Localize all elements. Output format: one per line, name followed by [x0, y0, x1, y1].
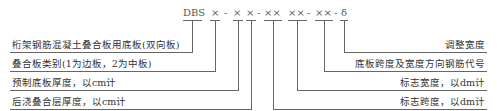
label-adjust-width: 调整宽度 — [445, 39, 485, 51]
leader-line — [273, 20, 274, 109]
label-nominal-span: 标志跨度，以dm计 — [400, 96, 485, 108]
leader-line — [344, 52, 487, 53]
leader-line — [297, 20, 298, 90]
leader-line — [238, 20, 239, 90]
label-slab-category: 叠合板类别(1为边板，2为中板) — [12, 58, 152, 70]
code-part-slab-type: × — [211, 7, 219, 19]
code-part-cast-thickness: × — [246, 7, 254, 19]
code-separator: - — [307, 7, 310, 19]
code-part-width: ×× — [288, 7, 305, 19]
leader-line — [251, 20, 252, 109]
leader-line — [297, 90, 487, 91]
leader-line — [10, 109, 252, 110]
code-separator: - — [224, 7, 227, 19]
label-precast-thickness: 预制底板厚度，以cm计 — [12, 77, 116, 89]
label-product-type: 桁架钢筋混凝土叠合板用底板(双向板) — [12, 39, 179, 51]
leader-line — [10, 71, 216, 72]
label-cast-layer-thickness: 后浇叠合层厚度，以cm计 — [12, 96, 126, 108]
leader-line — [192, 20, 193, 52]
code-part-span: ×× — [264, 7, 281, 19]
label-nominal-width: 标志宽度，以dm计 — [400, 77, 485, 89]
code-part-rebar: ×× — [315, 7, 332, 19]
code-prefix: DBS — [183, 7, 205, 19]
leader-line — [10, 90, 239, 91]
leader-line — [324, 71, 487, 72]
code-separator: - — [257, 7, 260, 19]
leader-line — [344, 20, 345, 52]
leader-line — [273, 109, 487, 110]
leader-line — [324, 20, 325, 71]
label-rebar-code: 底板跨度及宽度方向钢筋代号 — [355, 58, 485, 70]
code-part-precast-thickness: × — [233, 7, 241, 19]
code-separator: - — [334, 7, 337, 19]
code-part-adjust: δ — [341, 7, 347, 19]
leader-line — [215, 20, 216, 71]
leader-line — [10, 52, 193, 53]
